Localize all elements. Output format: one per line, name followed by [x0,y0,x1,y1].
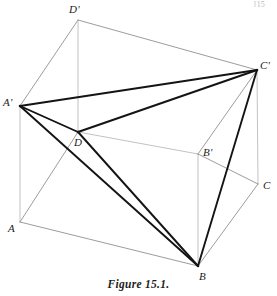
tetra-edge-Ap-Cp [20,70,257,106]
vertex-label-D-prime: D' [69,4,80,15]
edge-Cp-Bp [198,70,257,154]
edge-A-B [20,222,198,266]
tetrahedron-edges-group [20,70,257,266]
edge-Dp-Cp [78,20,257,70]
vertex-label-D: D [74,137,82,148]
edge-B-C [198,184,258,266]
edge-Cp-C [257,70,258,184]
figure-caption: Figure 15.1. [0,278,277,290]
cube-edges-group [20,20,258,266]
vertex-label-C-prime: C' [260,60,270,71]
vertex-label-C: C [263,180,271,191]
vertex-dot-B [197,265,200,268]
tetra-edge-D-B [78,132,198,266]
tetra-edge-Cp-D [78,70,257,132]
tetra-edge-Ap-B [20,106,198,266]
figure-container: [15 D'C'A'DB'CAB Figure 15.1. [0,0,277,296]
vertex-label-A: A [8,223,15,234]
vertex-label-A-prime: A' [3,97,12,108]
edge-Dp-Ap [20,20,78,106]
tetra-edge-Cp-B [198,70,257,266]
vertex-dot-D [77,131,80,134]
vertex-dot-Cp [256,69,259,72]
tetra-edge-Ap-D [20,106,78,132]
vertex-dot-Ap [19,105,22,108]
vertex-label-B-prime: B' [203,147,212,158]
edge-A-D [20,132,78,222]
cube-tetrahedron-diagram [0,0,277,296]
